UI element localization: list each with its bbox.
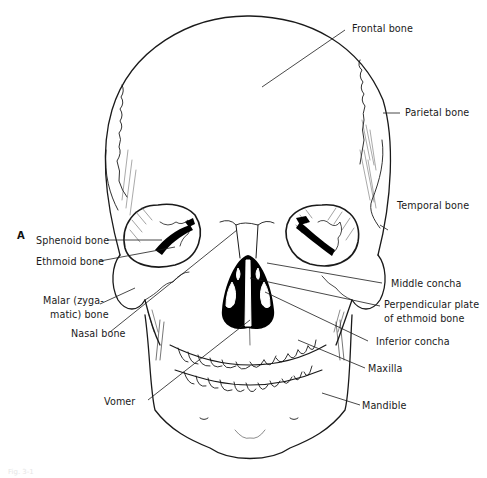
label-nasal-bone: Nasal bone	[71, 328, 126, 340]
label-middle-concha: Middle concha	[391, 278, 462, 290]
leader-malar	[100, 288, 135, 304]
label-parietal-bone: Parietal bone	[405, 107, 469, 119]
leader-mandible	[322, 393, 360, 405]
panel-letter: A	[17, 230, 25, 241]
leader-vomer	[148, 320, 250, 400]
label-malar-line2: matic) bone	[50, 309, 109, 321]
label-inferior-concha: Inferior concha	[376, 336, 450, 348]
label-sphenoid-bone: Sphenoid bone	[36, 235, 109, 247]
leader-nasal	[110, 230, 237, 332]
label-perpendicular-line2: of ethmoid bone	[384, 313, 465, 325]
leader-frontal	[262, 30, 345, 87]
figure-caption: Fig. 3-1	[8, 468, 34, 476]
leader-ethmoid	[100, 247, 175, 261]
label-mandible: Mandible	[362, 400, 406, 412]
left-orbit	[124, 204, 200, 267]
mandible-outline	[145, 315, 352, 459]
label-perpendicular-line1: Perpendicular plate	[384, 299, 479, 311]
label-maxilla: Maxilla	[368, 363, 402, 375]
right-orbital-fissure	[296, 222, 335, 256]
skull-diagram: A Frontal bone Parietal bone Temporal bo…	[0, 0, 487, 478]
cranium-outline	[105, 16, 390, 255]
label-vomer: Vomer	[104, 396, 135, 408]
right-orbit	[286, 205, 359, 266]
label-malar-line1: Malar (zyga-	[43, 295, 104, 307]
label-frontal-bone: Frontal bone	[352, 23, 413, 35]
label-ethmoid-bone: Ethmoid bone	[36, 256, 104, 268]
label-temporal-bone: Temporal bone	[397, 200, 469, 212]
